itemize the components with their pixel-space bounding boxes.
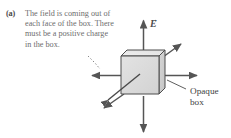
cube-face-top [121,50,165,56]
opaque-box-label-line2: box [190,97,204,107]
field-arrow-upper-right [163,44,181,57]
dotted-leader-line [88,56,100,69]
field-arrow-lower-left [104,94,124,108]
cube-face-front [121,56,159,94]
opaque-box-label-line1: Opaque [190,86,219,96]
figure-panel: (a) The field is coming out of each face… [0,0,231,138]
field-label: E [150,18,157,29]
cube-face-right [159,50,165,94]
opaque-box-leader-line [167,80,186,89]
panel-label: (a) [6,9,15,18]
caption-text: The field is coming out of each face of … [25,9,115,50]
